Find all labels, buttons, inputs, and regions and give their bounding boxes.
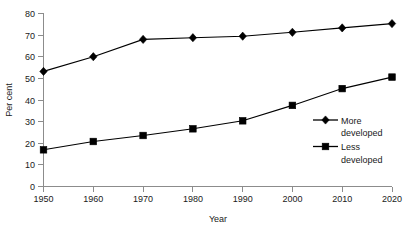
data-point-marker xyxy=(40,67,47,75)
y-tick-label: 50 xyxy=(25,74,35,84)
x-tick-label: 2010 xyxy=(332,194,352,204)
y-tick-label: 0 xyxy=(30,182,35,192)
data-point-marker xyxy=(289,102,296,109)
data-point-marker xyxy=(139,35,146,43)
data-point-marker xyxy=(190,126,197,133)
y-tick-label: 60 xyxy=(25,52,35,62)
legend-label-line2: developed xyxy=(341,128,383,138)
y-axis-title: Per cent xyxy=(4,83,14,117)
x-axis-title: Year xyxy=(209,214,227,224)
legend-item-less-developed[interactable]: Less developed xyxy=(313,142,383,165)
legend-label-line2: developed xyxy=(341,155,383,165)
chart-legend: More developed Less developed xyxy=(313,116,383,165)
legend-square-icon xyxy=(322,143,329,150)
x-tick-label: 1970 xyxy=(133,194,153,204)
data-point-marker xyxy=(389,74,396,81)
y-tick-label: 20 xyxy=(25,139,35,149)
y-tick-label: 80 xyxy=(25,9,35,19)
x-tick-label: 1960 xyxy=(83,194,103,204)
line-chart: 80 70 60 50 40 30 20 10 0 1950 1960 1970 xyxy=(0,0,403,232)
data-point-marker xyxy=(140,132,147,139)
x-tick-label: 1990 xyxy=(233,194,253,204)
series-line-more-developed xyxy=(44,24,393,72)
chart-figure: 80 70 60 50 40 30 20 10 0 1950 1960 1970 xyxy=(0,0,403,232)
x-tick-label: 1980 xyxy=(183,194,203,204)
data-point-marker xyxy=(239,118,246,125)
data-point-marker xyxy=(90,138,97,145)
x-tick-label: 1950 xyxy=(33,194,53,204)
x-tick-label: 2020 xyxy=(382,194,402,204)
y-tick-marks xyxy=(38,14,44,187)
data-point-marker xyxy=(90,53,97,61)
legend-item-more-developed[interactable]: More developed xyxy=(313,116,383,139)
legend-label-line1: More xyxy=(341,116,362,126)
legend-diamond-icon xyxy=(322,116,329,124)
y-tick-label: 10 xyxy=(25,160,35,170)
data-point-marker xyxy=(339,85,346,92)
data-point-marker xyxy=(239,32,246,40)
data-point-marker xyxy=(388,20,395,28)
y-tick-label: 40 xyxy=(25,96,35,106)
legend-label-line1: Less xyxy=(341,142,361,152)
y-tick-labels: 80 70 60 50 40 30 20 10 0 xyxy=(25,9,35,192)
data-point-marker xyxy=(40,147,47,154)
x-tick-label: 2000 xyxy=(282,194,302,204)
data-point-marker xyxy=(189,34,196,42)
data-point-marker xyxy=(289,28,296,36)
x-tick-labels: 1950 1960 1970 1980 1990 2000 2010 2020 xyxy=(33,194,402,204)
y-tick-label: 70 xyxy=(25,31,35,41)
y-tick-label: 30 xyxy=(25,117,35,127)
data-point-marker xyxy=(339,24,346,32)
series-more-developed xyxy=(40,20,396,76)
x-tick-marks xyxy=(44,187,393,192)
